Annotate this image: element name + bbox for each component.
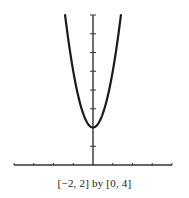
parabola-plot: [0, 0, 189, 198]
viewing-window-caption: [−2, 2] by [0, 4]: [0, 177, 189, 189]
axes: [14, 15, 172, 165]
